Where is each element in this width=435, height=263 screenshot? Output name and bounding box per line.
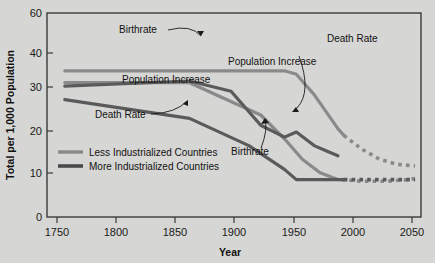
y-tick-label-30: 30 <box>30 81 42 93</box>
annotation-death-rate-right: Death Rate <box>327 33 378 44</box>
x-tick-label-1800: 1800 <box>104 226 128 238</box>
legend-label-more-industrialized: More Industrialized Countries <box>89 161 219 172</box>
x-tick-label-2000: 2000 <box>341 226 365 238</box>
legend-label-less-industrialized: Less Industrialized Countries <box>89 147 217 158</box>
x-tick-label-1950: 1950 <box>282 226 306 238</box>
y-tick-label-40: 40 <box>30 47 42 59</box>
x-tick-label-1850: 1850 <box>163 226 187 238</box>
y-tick-label-20: 20 <box>30 125 42 137</box>
y-tick-label-0: 0 <box>36 211 42 223</box>
annotation-birthrate-lower: Birthrate <box>231 146 269 157</box>
x-axis-title: Year <box>219 246 241 258</box>
y-tick-label-10: 10 <box>30 167 42 179</box>
annotation-birthrate-top: Birthrate <box>119 24 157 35</box>
y-tick-label-60: 60 <box>30 7 42 19</box>
annotation-population-increase-right: Population Increase <box>228 56 317 67</box>
annotation-population-increase-left: Population Increase <box>122 74 211 85</box>
chart-svg: 60 40 30 20 10 0 1750 1800 1850 1900 195… <box>0 0 435 263</box>
x-tick-label-2050: 2050 <box>400 226 424 238</box>
annotation-death-rate-left: Death Rate <box>95 109 146 120</box>
x-tick-label-1900: 1900 <box>222 226 246 238</box>
y-axis-title: Total per 1,000 Population <box>4 50 16 180</box>
demographic-transition-chart: 60 40 30 20 10 0 1750 1800 1850 1900 195… <box>0 0 435 263</box>
x-tick-label-1750: 1750 <box>45 226 69 238</box>
